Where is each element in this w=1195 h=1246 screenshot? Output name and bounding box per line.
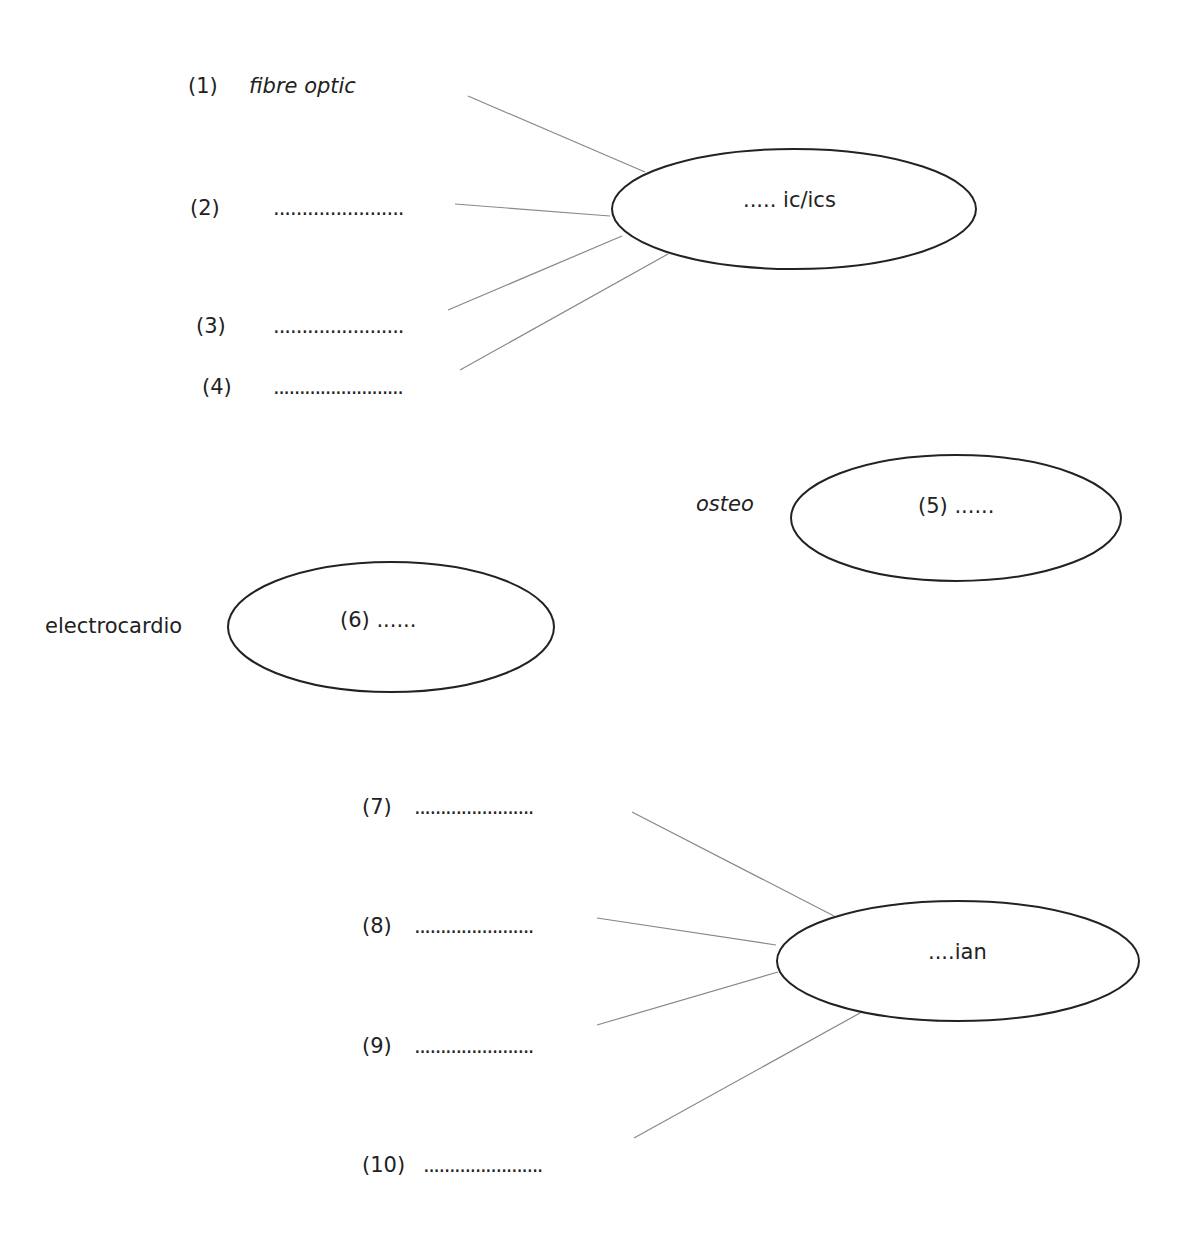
item-number-3: (3) [196,316,226,337]
connector-line [460,254,668,370]
connector-line [597,972,778,1025]
item-text-fibre-optic: fibre optic [249,76,356,97]
blank-field-2[interactable]: ....................... [273,198,404,219]
item-number-2: (2) [190,198,220,219]
blank-field-10[interactable]: ....................... [423,1155,542,1176]
item-number-8: (8) [362,916,392,937]
item-number-10: (10) [362,1155,405,1176]
item-number-1: (1) [188,76,218,97]
connector-line [634,1013,860,1138]
ellipse-osteo [791,455,1121,581]
item-number-7: (7) [362,797,392,818]
blank-field-7[interactable]: ....................... [414,797,533,818]
item-number-4: (4) [202,377,232,398]
blank-field-4[interactable]: ......................... [273,377,402,398]
connector-line [597,918,776,945]
prefix-electrocardio: electrocardio [45,616,182,637]
prefix-osteo: osteo [696,494,754,515]
connector-line [468,96,645,172]
blank-field-3[interactable]: ....................... [273,316,404,337]
center-label-ic-ics: ..... ic/ics [743,190,836,211]
center-label-5[interactable]: (5) ...... [918,496,994,517]
blank-field-9[interactable]: ....................... [414,1036,533,1057]
blank-field-8[interactable]: ....................... [414,916,533,937]
connector-line [448,236,622,310]
connector-line [455,204,610,216]
item-number-9: (9) [362,1036,392,1057]
center-label-6[interactable]: (6) ...... [340,610,416,631]
connector-line [632,812,834,916]
center-label-ian: ....ian [928,942,987,963]
